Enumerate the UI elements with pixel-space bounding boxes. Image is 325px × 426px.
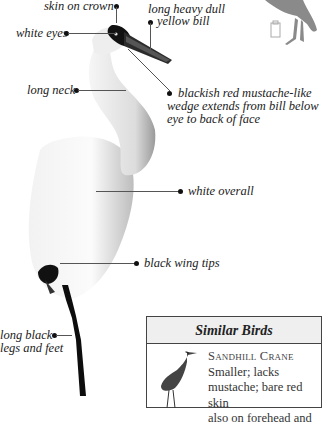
leader-line bbox=[96, 191, 180, 192]
crane-silhouette-icon bbox=[255, 0, 325, 50]
label-white-eyes: white eyes bbox=[16, 27, 68, 40]
label-skin-on-crown: skin on crown bbox=[44, 0, 114, 13]
leader-line bbox=[60, 263, 136, 264]
label-bill-line2: yellow bill bbox=[157, 15, 209, 28]
label-white-overall: white overall bbox=[188, 185, 254, 198]
label-mustache-line3: eye to back of face bbox=[167, 113, 260, 126]
leader-line bbox=[116, 7, 117, 23]
label-black-wing-tips: black wing tips bbox=[144, 257, 220, 270]
similar-bird-name: Sandhill Crane bbox=[208, 349, 320, 365]
leader-dot bbox=[178, 189, 183, 194]
leader-dot bbox=[134, 261, 139, 266]
leader-line bbox=[68, 33, 116, 34]
similar-bird-desc-line1: Smaller; lacks bbox=[208, 365, 320, 381]
leader-line-diagonal bbox=[120, 45, 180, 95]
leader-line bbox=[56, 335, 72, 336]
human-scale-icon bbox=[271, 23, 280, 37]
similar-birds-title: Similar Birds bbox=[147, 317, 321, 344]
similar-bird-desc-line3: also on forehead and bbox=[208, 411, 320, 426]
similar-bird-desc-line2: mustache; bare red skin bbox=[208, 380, 320, 411]
sandhill-crane-thumbnail bbox=[157, 348, 201, 408]
leader-dot bbox=[167, 91, 172, 96]
similar-birds-box: Similar Birds Sandhill Crane Smaller; la… bbox=[146, 316, 322, 408]
label-legs-line2: legs and feet bbox=[0, 342, 63, 355]
leader-line bbox=[78, 90, 126, 91]
label-long-neck: long neck bbox=[27, 84, 75, 97]
